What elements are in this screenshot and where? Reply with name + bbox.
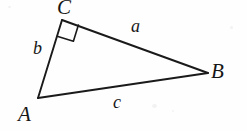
side-b-line [38, 20, 62, 98]
triangle-figure: C B A a b c [0, 0, 247, 131]
vertex-label-c: C [57, 0, 71, 18]
side-c-line [38, 73, 208, 98]
side-label-a: a [131, 17, 140, 35]
triangle-svg [0, 0, 247, 131]
vertex-label-a: A [18, 104, 31, 125]
side-label-b: b [33, 39, 42, 57]
side-label-c: c [113, 93, 121, 111]
vertex-label-b: B [211, 61, 224, 82]
